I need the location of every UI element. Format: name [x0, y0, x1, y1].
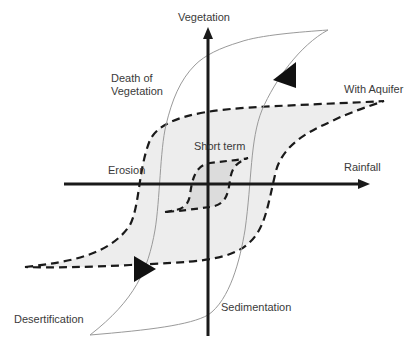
death-of-vegetation-label: Death of Vegetation: [111, 72, 163, 98]
y-axis-label: Vegetation: [178, 11, 230, 24]
upward-direction-arrowhead-icon: [273, 62, 296, 88]
desertification-label: Desertification: [14, 313, 84, 326]
x-axis-arrowhead-icon: [358, 179, 370, 189]
y-axis-arrowhead-icon: [203, 27, 213, 39]
with-aquifer-label: With Aquifer: [344, 83, 403, 96]
sedimentation-label: Sedimentation: [221, 301, 291, 314]
erosion-label: Erosion: [108, 164, 145, 177]
x-axis-label: Rainfall: [344, 161, 381, 174]
short-term-label: Short term: [194, 140, 245, 153]
